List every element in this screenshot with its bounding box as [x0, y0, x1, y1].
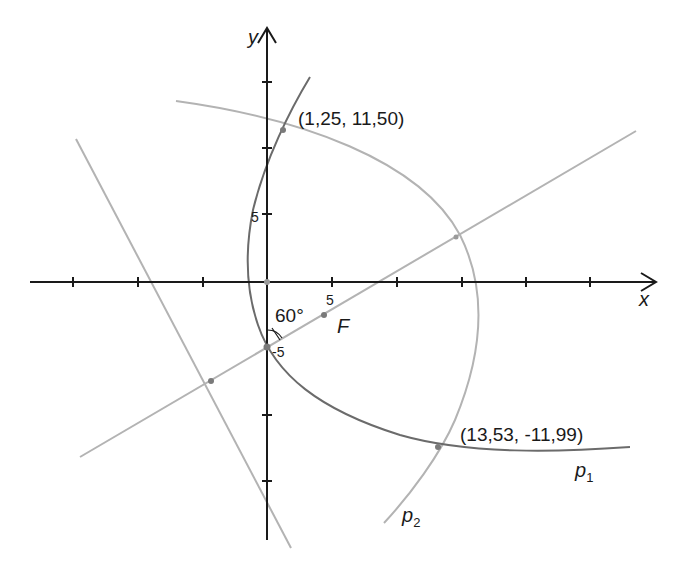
- point-label-top: (1,25, 11,50): [298, 108, 404, 129]
- point-label-bottom: (13,53, -11,99): [460, 424, 583, 445]
- diagram-canvas: y x 5 5 -5 60° F (1,25, 11,50) (13,53, -…: [0, 0, 686, 561]
- y-axis-label: y: [246, 26, 259, 48]
- intersection-point-bottom: [435, 444, 441, 450]
- angle-label: 60°: [275, 305, 304, 326]
- p2-vertex-point: [454, 235, 459, 240]
- curve-p1: [248, 77, 630, 451]
- y-tick-label-5: 5: [251, 209, 259, 225]
- y-intercept-point: [264, 344, 271, 351]
- x-axis-label: x: [638, 288, 650, 310]
- axis-of-symmetry-line: [80, 131, 636, 457]
- x-tick-label-5: 5: [326, 292, 334, 308]
- intersection-point-top: [280, 127, 286, 133]
- focus-point: [321, 312, 327, 318]
- origin-point: [264, 279, 270, 285]
- parabola-diagram: y x 5 5 -5 60° F (1,25, 11,50) (13,53, -…: [0, 0, 686, 561]
- x-axis: [30, 273, 656, 291]
- directrix-line: [76, 139, 291, 548]
- directrix-intersection-point: [208, 378, 214, 384]
- curve-p1-label: p1: [574, 459, 593, 485]
- curve-p2-label: p2: [401, 504, 420, 530]
- y-tick-label-neg5: -5: [272, 344, 285, 360]
- focus-label: F: [337, 315, 351, 337]
